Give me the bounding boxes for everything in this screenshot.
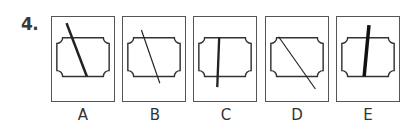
vertical-line — [364, 25, 369, 76]
notched-rectangle-icon — [199, 38, 251, 77]
figure-a-drawing — [52, 17, 114, 101]
option-a-label: A — [63, 106, 103, 124]
option-c-label: C — [206, 106, 246, 124]
option-d-figure[interactable] — [265, 16, 329, 102]
figure-b-drawing — [123, 17, 185, 101]
option-b-figure[interactable] — [122, 16, 186, 102]
diagonal-line — [279, 37, 316, 89]
diagonal-line — [67, 23, 87, 76]
option-d-label: D — [277, 106, 317, 124]
vertical-line — [217, 38, 219, 87]
figure-c-drawing — [194, 17, 256, 101]
question-number: 4. — [21, 14, 38, 34]
option-e-figure[interactable] — [336, 16, 400, 102]
option-c-figure[interactable] — [193, 16, 257, 102]
figure-d-drawing — [266, 17, 328, 101]
notched-rectangle-icon — [271, 38, 323, 77]
notched-rectangle-icon — [128, 38, 180, 77]
option-e-label: E — [348, 106, 388, 124]
option-a-figure[interactable] — [51, 16, 115, 102]
option-b-label: B — [135, 106, 175, 124]
figure-e-drawing — [337, 17, 399, 101]
notched-rectangle-icon — [57, 38, 109, 77]
